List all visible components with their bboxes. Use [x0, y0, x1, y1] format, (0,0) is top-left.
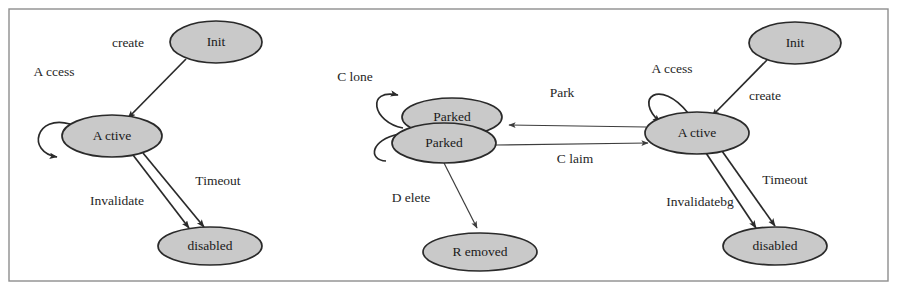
edge-label-mid-delete: D elete — [392, 190, 431, 205]
edge-label-left-timeout: Timeout — [195, 173, 241, 188]
state-left-init[interactable]: Init — [170, 21, 262, 63]
state-label: Parked — [433, 109, 471, 124]
state-label: disabled — [753, 238, 798, 253]
state-label: Init — [786, 35, 805, 50]
state-left-active[interactable]: A ctive — [62, 115, 162, 157]
diagram-canvas: Init A ctive disabled create A ccess Tim… — [0, 0, 898, 290]
edge-label-left-create: create — [112, 35, 144, 50]
edge-label-left-access: A ccess — [34, 64, 75, 79]
state-transition-diagram: Init A ctive disabled create A ccess Tim… — [0, 0, 898, 290]
state-right-active[interactable]: A ctive — [645, 112, 749, 154]
edge-label-right-invalidate: Invalidatebg — [666, 194, 734, 209]
state-label: A ctive — [93, 128, 132, 143]
state-label: Init — [207, 34, 226, 49]
edge-label-mid-park: Park — [550, 85, 575, 100]
edge-label-right-create: create — [749, 88, 781, 103]
state-mid-parked-lower[interactable]: Parked — [392, 123, 496, 163]
state-mid-removed[interactable]: R emoved — [423, 233, 537, 271]
state-left-disabled[interactable]: disabled — [158, 227, 262, 265]
state-label: disabled — [188, 238, 233, 253]
edge-label-left-invalidate: Invalidate — [90, 193, 144, 208]
edge-label-mid-clone: C lone — [337, 69, 373, 84]
edge-label-right-access: A ccess — [652, 61, 693, 76]
state-right-disabled[interactable]: disabled — [723, 227, 827, 265]
edge-label-right-timeout: Timeout — [762, 172, 808, 187]
state-label: R emoved — [452, 244, 507, 259]
edge-label-mid-claim: C laim — [557, 151, 594, 166]
state-right-init[interactable]: Init — [749, 22, 841, 64]
state-label: A ctive — [678, 125, 717, 140]
state-label: Parked — [425, 135, 463, 150]
